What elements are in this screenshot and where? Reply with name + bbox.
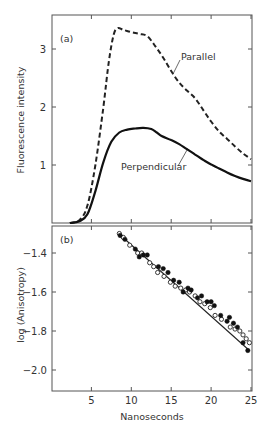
open-point (162, 274, 166, 278)
filled-point (181, 290, 185, 294)
open-point (173, 284, 177, 288)
filled-point (227, 315, 231, 319)
open-point (241, 333, 245, 337)
filled-point (235, 325, 239, 329)
x-tick-label: 20 (205, 395, 218, 406)
x-tick-labels: 510152025 (88, 395, 257, 406)
panel-b-ticks (52, 226, 252, 391)
y-tick-label: 3 (40, 44, 46, 55)
filled-point (123, 237, 127, 241)
filled-point (205, 300, 209, 304)
open-point (156, 270, 160, 274)
open-point (238, 329, 242, 333)
open-point (152, 265, 156, 269)
filled-point (246, 348, 250, 352)
panel-a-frame (52, 15, 252, 223)
parallel-annotation: Parallel (181, 51, 216, 62)
y-tick-label: −2.0 (23, 365, 47, 376)
y-tick-label: −1.6 (23, 287, 47, 298)
open-point (198, 300, 202, 304)
open-point (179, 286, 183, 290)
filled-point (171, 278, 175, 282)
filled-point (145, 253, 149, 257)
panel-b-label: (b) (60, 234, 73, 245)
panel-b-frame (52, 226, 252, 391)
panel-a-ytick-labels: 321 (40, 44, 46, 171)
filled-point (189, 288, 193, 292)
y-tick-label: −1.4 (23, 248, 47, 259)
open-point (128, 243, 132, 247)
x-tick-label: 10 (125, 395, 138, 406)
filled-point (118, 233, 122, 237)
parallel-leader-line (173, 60, 180, 74)
perpendicular-curve (70, 128, 251, 223)
filled-point (199, 294, 203, 298)
perpendicular-annotation: Perpendicular (121, 161, 186, 172)
panel-b: −1.4−1.6−1.8−2.0 (b) log (Anisotropy) (15, 226, 252, 391)
x-tick-label: 15 (165, 395, 178, 406)
panel-a-ticks (52, 15, 252, 223)
filled-point (231, 321, 235, 325)
panel-a-ylabel: Fluorescence intensity (15, 66, 26, 173)
filled-point (161, 266, 165, 270)
open-point (213, 313, 217, 317)
panel-b-ylabel: log (Anisotropy) (15, 267, 26, 343)
filled-point (209, 300, 213, 304)
panel-a-label: (a) (60, 33, 73, 44)
filled-point (225, 319, 229, 323)
filled-point (166, 270, 170, 274)
filled-point (218, 313, 222, 317)
open-point (247, 341, 251, 345)
y-tick-label: 1 (40, 160, 46, 171)
filled-point (133, 247, 137, 251)
filled-point (241, 341, 245, 345)
parallel-curve (70, 28, 251, 223)
open-point (244, 337, 248, 341)
filled-point (212, 303, 216, 307)
filled-point (156, 264, 160, 268)
figure: 321 (a) Fluorescence intensity Parallel … (0, 0, 269, 434)
panel-b-ytick-labels: −1.4−1.6−1.8−2.0 (23, 248, 47, 376)
x-axis-title: Nanoseconds (120, 411, 184, 422)
y-tick-label: 2 (40, 102, 46, 113)
x-tick-label: 5 (88, 395, 94, 406)
open-point (148, 261, 152, 265)
filled-point (195, 296, 199, 300)
panel-a: 321 (a) Fluorescence intensity Parallel … (15, 15, 252, 223)
open-point (208, 306, 212, 310)
open-point (219, 317, 223, 321)
filled-point (177, 280, 181, 284)
open-point (228, 325, 232, 329)
x-tick-label: 25 (245, 395, 258, 406)
y-tick-label: −1.8 (23, 326, 47, 337)
filled-point (137, 255, 141, 259)
